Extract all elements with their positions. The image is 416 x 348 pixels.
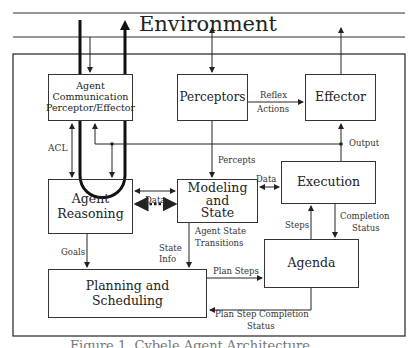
environment-title: Environment: [0, 12, 416, 36]
agent-state-label: Agent State: [195, 226, 246, 236]
execution-label: Execution: [297, 175, 360, 189]
output-label: Output: [349, 138, 379, 148]
agent-reasoning-line-1: Agent: [72, 192, 110, 206]
agenda-box[interactable]: Agenda: [264, 239, 359, 288]
reflex-label: Reflex: [260, 90, 287, 100]
completion-label: Completion: [340, 211, 390, 221]
figure-caption: Figure 1. Cybele Agent Architecture: [70, 338, 310, 348]
plan-steps-label: Plan Steps: [213, 266, 259, 276]
status-label: Status: [352, 223, 380, 233]
agent-reasoning-box[interactable]: Agent Reasoning: [48, 179, 133, 234]
execution-box[interactable]: Execution: [281, 161, 376, 204]
planning-scheduling-box[interactable]: Planning and Scheduling: [48, 269, 207, 318]
perceptors-box[interactable]: Perceptors: [177, 74, 248, 121]
plan-status-label: Status: [247, 321, 275, 331]
agenda-label: Agenda: [288, 256, 336, 270]
info-label: Info: [159, 254, 176, 264]
effector-label: Effector: [315, 90, 366, 104]
agent-comm-line-3: Perceptor/Effector: [46, 103, 135, 114]
percepts-label: Percepts: [218, 155, 255, 165]
agent-reasoning-line-2: Reasoning: [57, 207, 123, 221]
data-modeling-execution-label: Data: [256, 174, 276, 184]
planning-line-2: Scheduling: [92, 294, 163, 308]
modeling-line-3: State: [201, 207, 234, 220]
modeling-state-box[interactable]: Modeling and State: [177, 179, 258, 223]
planning-line-1: Planning and: [86, 279, 170, 293]
perceptors-label: Perceptors: [180, 91, 246, 105]
state-label: State: [159, 243, 182, 253]
actions-label: Actions: [257, 104, 289, 114]
steps-label: Steps: [285, 220, 309, 230]
plan-step-completion-label: Plan Step Completion: [215, 309, 309, 319]
data-reasoning-modeling-label: Data: [145, 195, 165, 205]
acl-label: ACL: [48, 143, 67, 153]
goals-label: Goals: [61, 247, 85, 257]
agent-communication-box[interactable]: Agent Communication Perceptor/Effector: [48, 74, 133, 121]
effector-box[interactable]: Effector: [305, 74, 376, 121]
transitions-label: Transitions: [195, 238, 243, 248]
